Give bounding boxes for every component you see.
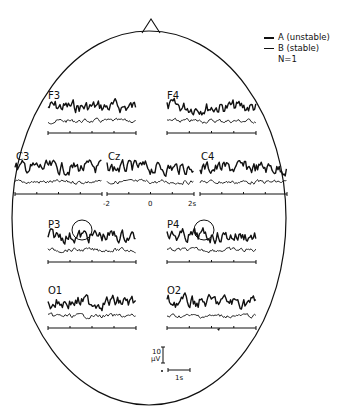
trace-a-unstable [167,99,256,115]
trace-a-unstable [107,160,193,177]
legend-n: N=1 [264,54,330,65]
time-axis [167,326,256,330]
legend-swatch-thin [264,48,274,49]
legend-swatch-thick [264,37,274,39]
legend-item-a: A (unstable) [264,32,330,43]
head-outline [12,31,286,405]
time-scale-bar [168,368,190,372]
time-axis [167,260,256,264]
trace-b-stable [48,313,136,319]
trace-b-stable [48,118,136,124]
electrode-label-p3: P3 [48,220,60,230]
trace-b-stable [15,180,101,185]
time-axis [15,192,102,196]
trace-b-stable [167,314,256,319]
electrode-label-o1: O1 [48,286,62,296]
electrode-label-cz: Cz [108,152,120,162]
electrode-label-c4: C4 [201,152,214,162]
amplitude-unit: μV [151,356,160,363]
trace-a-unstable [15,160,101,175]
amplitude-scale-bar [161,347,165,372]
time-axis [107,192,194,196]
trace-a-unstable [200,161,286,176]
legend: A (unstable) B (stable) N=1 [264,32,330,65]
electrode-label-p4: P4 [167,220,179,230]
trace-b-stable [107,179,193,184]
time-tick-2s: 2s [188,200,196,208]
legend-label-a: A (unstable) [278,32,330,43]
electrode-label-o2: O2 [167,286,181,296]
time-tick-0: 0 [148,200,152,208]
legend-item-b: B (stable) [264,43,330,54]
trace-b-stable [167,118,256,123]
time-scale-label: 1s [175,375,183,382]
time-tick-neg2: -2 [103,200,110,208]
trace-b-stable [48,248,136,253]
highlight-circle [72,220,92,240]
time-axis [48,260,136,264]
time-axis [200,192,287,196]
trace-a-unstable [48,99,136,113]
legend-label-b: B (stable) [278,43,319,54]
time-axis [167,131,256,135]
trace-b-stable [167,247,256,253]
electrode-label-f3: F3 [48,91,60,101]
electrode-label-c3: C3 [16,152,29,162]
electrode-label-f4: F4 [167,91,179,101]
trace-a-unstable [167,228,256,244]
trace-a-unstable [48,295,136,311]
trace-b-stable [200,180,286,185]
time-axis [48,131,136,135]
time-axis [48,326,136,330]
